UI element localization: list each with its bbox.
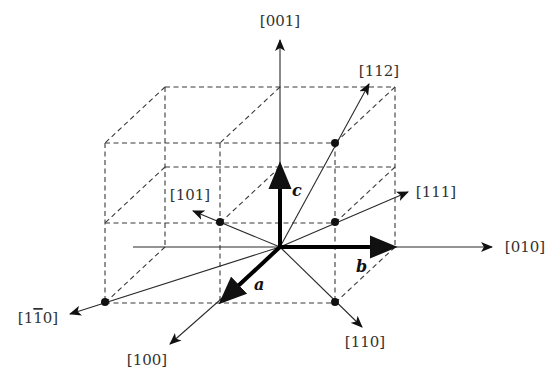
vector-a	[222, 246, 281, 301]
label-vector-b: b	[356, 257, 367, 276]
ray-110	[280, 247, 362, 327]
label-001: [001]	[260, 12, 300, 30]
dashed-grid	[105, 87, 395, 303]
label-111: [111]	[416, 183, 456, 201]
ray-101	[193, 211, 280, 247]
point-1-10	[101, 298, 109, 306]
lattice-diagram: [001] [112] [101] [111] [010] [110] [100…	[0, 0, 560, 390]
label-112: [112]	[359, 62, 399, 80]
label-vector-a: a	[254, 275, 264, 294]
point-101	[216, 218, 224, 226]
label-010: [010]	[505, 238, 545, 256]
point-111	[331, 218, 339, 226]
label-1-10-open: [1	[18, 309, 33, 327]
point-112	[331, 139, 339, 147]
ray-1-10	[70, 247, 280, 314]
label-101: [101]	[170, 186, 210, 204]
label-1-10-rest: 0]	[43, 309, 58, 327]
point-110	[331, 298, 339, 306]
ray-112	[280, 84, 369, 247]
ray-111	[280, 192, 408, 247]
label-1-10: [110]	[18, 309, 58, 327]
label-100: [100]	[127, 351, 167, 369]
label-110: [110]	[345, 333, 385, 351]
label-vector-c: c	[292, 181, 302, 200]
label-1-10-bar: 1	[33, 309, 43, 327]
